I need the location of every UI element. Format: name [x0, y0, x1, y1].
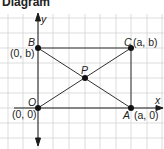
label-C: C	[124, 36, 132, 48]
grid	[0, 14, 164, 149]
x-axis-label: x	[154, 94, 161, 106]
coord-A: (a, 0)	[134, 109, 159, 121]
y-axis-label: y	[40, 13, 47, 25]
coord-C: (a, b)	[133, 36, 158, 48]
label-O: O	[28, 96, 36, 108]
y-axis-arrow-down-icon	[36, 138, 41, 146]
coord-O: (0, 0)	[12, 108, 37, 120]
label-A: A	[122, 109, 130, 121]
y-axis-arrow-up-icon	[36, 13, 41, 21]
label-P: P	[81, 64, 88, 76]
coordinate-diagram: y x B (0, b) C (a, b) P O (0, 0) A (a, 0…	[0, 0, 164, 149]
coord-B: (0, b)	[10, 47, 35, 59]
point-B	[35, 45, 41, 51]
